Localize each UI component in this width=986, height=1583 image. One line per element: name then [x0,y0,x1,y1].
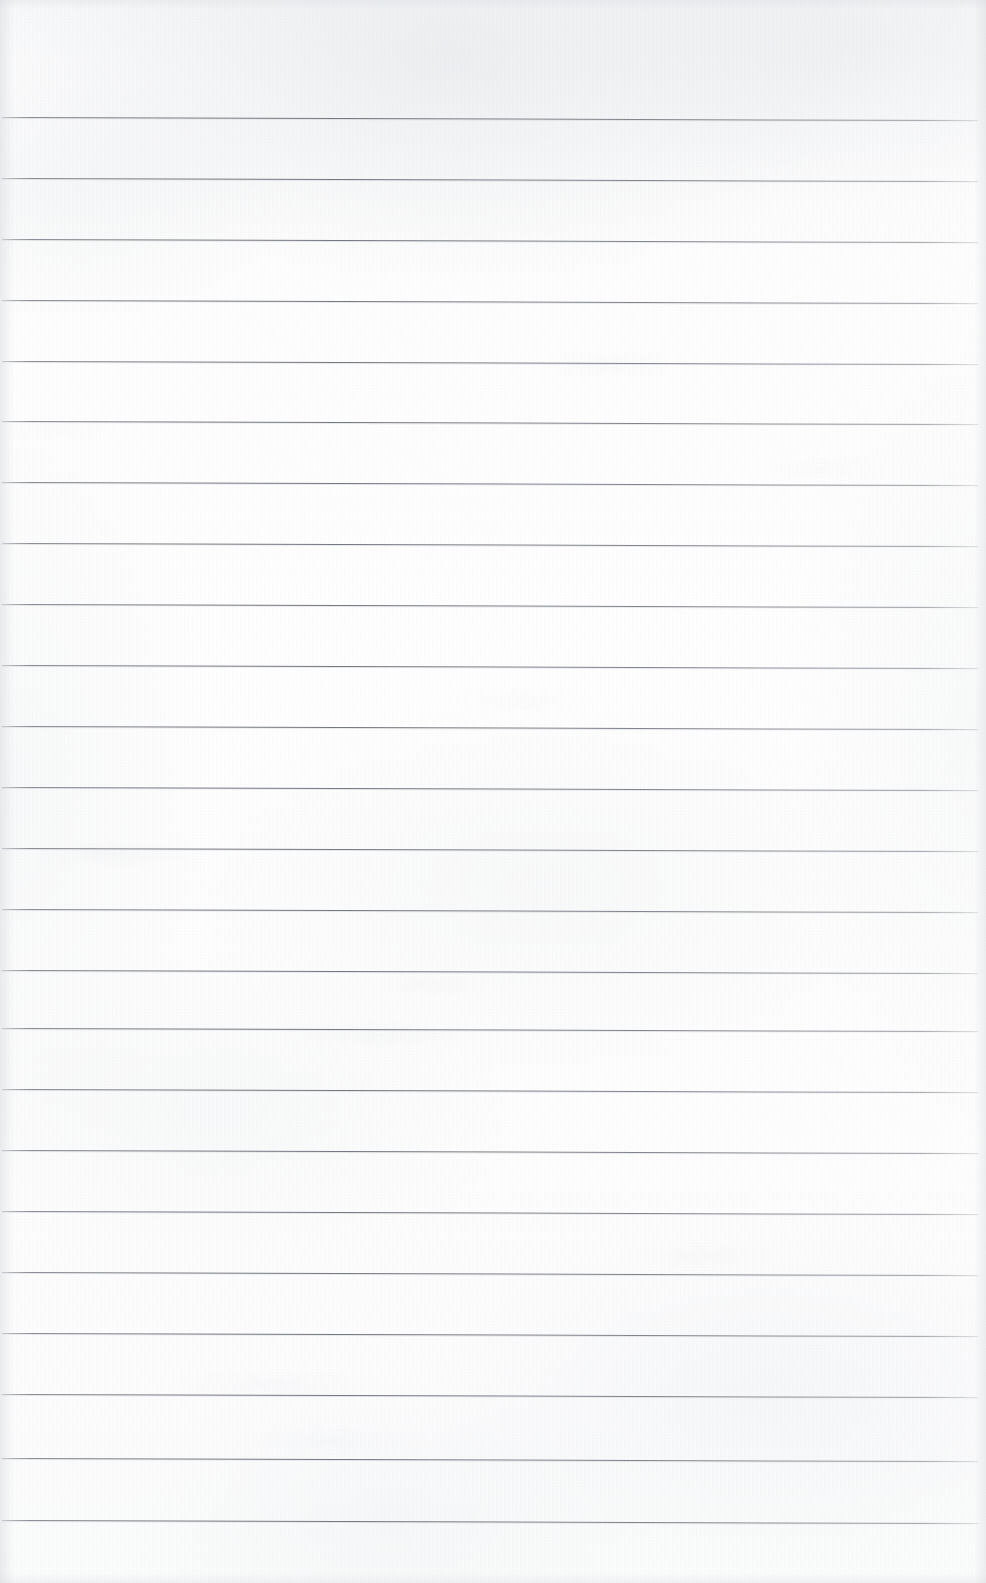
scanned-page [0,0,986,1583]
paper-background [0,0,986,1583]
